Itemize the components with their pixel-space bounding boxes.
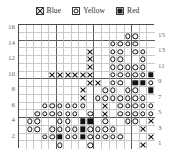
grid-cell[interactable]	[140, 56, 148, 64]
grid-cell[interactable]	[110, 79, 118, 87]
grid-cell[interactable]	[87, 141, 95, 149]
grid-cell[interactable]	[64, 72, 72, 80]
grid-cell[interactable]	[79, 72, 87, 80]
grid-cell[interactable]	[147, 118, 155, 126]
grid-cell[interactable]	[27, 141, 35, 149]
grid-cell[interactable]	[94, 25, 102, 33]
grid-cell[interactable]	[19, 110, 27, 118]
grid-cell[interactable]	[42, 64, 50, 72]
grid-cell[interactable]	[132, 87, 140, 95]
grid-cell[interactable]	[147, 126, 155, 134]
grid-cell[interactable]	[19, 48, 27, 56]
grid-cell[interactable]	[117, 48, 125, 56]
grid-cell[interactable]	[19, 64, 27, 72]
grid-cell[interactable]	[147, 95, 155, 103]
grid-cell[interactable]	[42, 126, 50, 134]
grid-cell[interactable]	[49, 134, 57, 142]
grid-cell[interactable]	[79, 95, 87, 103]
grid-cell[interactable]	[72, 56, 80, 64]
grid-cell[interactable]	[34, 118, 42, 126]
grid-cell[interactable]	[57, 141, 65, 149]
grid-cell[interactable]	[102, 48, 110, 56]
grid-cell[interactable]	[110, 118, 118, 126]
grid-cell[interactable]	[27, 33, 35, 41]
grid-cell[interactable]	[117, 118, 125, 126]
grid-cell[interactable]	[72, 103, 80, 111]
grid-cell[interactable]	[132, 118, 140, 126]
grid-cell[interactable]	[147, 141, 155, 149]
grid-cell[interactable]	[57, 25, 65, 33]
grid-cell[interactable]	[64, 25, 72, 33]
grid-cell[interactable]	[42, 95, 50, 103]
grid-cell[interactable]	[19, 87, 27, 95]
grid-cell[interactable]	[125, 141, 133, 149]
grid-cell[interactable]	[19, 72, 27, 80]
grid-cell[interactable]	[49, 33, 57, 41]
grid-cell[interactable]	[57, 48, 65, 56]
grid-cell[interactable]	[34, 126, 42, 134]
grid-cell[interactable]	[87, 48, 95, 56]
grid-cell[interactable]	[132, 48, 140, 56]
grid-cell[interactable]	[102, 95, 110, 103]
grid-cell[interactable]	[34, 134, 42, 142]
grid-cell[interactable]	[34, 103, 42, 111]
grid-cell[interactable]	[49, 141, 57, 149]
grid-cell[interactable]	[110, 25, 118, 33]
grid-cell[interactable]	[42, 141, 50, 149]
grid-cell[interactable]	[147, 87, 155, 95]
grid-cell[interactable]	[87, 56, 95, 64]
grid-cell[interactable]	[132, 95, 140, 103]
grid-cell[interactable]	[140, 25, 148, 33]
grid-cell[interactable]	[79, 41, 87, 49]
grid-cell[interactable]	[34, 41, 42, 49]
grid-cell[interactable]	[102, 56, 110, 64]
grid-cell[interactable]	[87, 95, 95, 103]
grid-cell[interactable]	[140, 72, 148, 80]
grid-cell[interactable]	[132, 79, 140, 87]
grid-cell[interactable]	[27, 48, 35, 56]
grid-cell[interactable]	[132, 33, 140, 41]
grid-cell[interactable]	[42, 25, 50, 33]
grid-cell[interactable]	[87, 110, 95, 118]
grid-cell[interactable]	[42, 33, 50, 41]
grid-cell[interactable]	[64, 33, 72, 41]
grid-cell[interactable]	[117, 33, 125, 41]
grid-cell[interactable]	[79, 118, 87, 126]
grid-cell[interactable]	[147, 79, 155, 87]
grid-cell[interactable]	[102, 72, 110, 80]
grid-cell[interactable]	[117, 79, 125, 87]
grid-cell[interactable]	[102, 110, 110, 118]
grid-cell[interactable]	[27, 118, 35, 126]
grid-cell[interactable]	[102, 41, 110, 49]
grid-cell[interactable]	[94, 134, 102, 142]
grid-cell[interactable]	[72, 118, 80, 126]
grid-cell[interactable]	[94, 87, 102, 95]
grid-cell[interactable]	[102, 33, 110, 41]
grid-cell[interactable]	[27, 110, 35, 118]
grid-cell[interactable]	[72, 141, 80, 149]
grid-cell[interactable]	[27, 87, 35, 95]
grid-cell[interactable]	[125, 56, 133, 64]
grid-cell[interactable]	[79, 134, 87, 142]
grid-cell[interactable]	[27, 95, 35, 103]
grid-cell[interactable]	[117, 87, 125, 95]
grid-cell[interactable]	[94, 141, 102, 149]
grid-cell[interactable]	[94, 56, 102, 64]
grid-cell[interactable]	[94, 126, 102, 134]
grid-cell[interactable]	[87, 118, 95, 126]
grid-cell[interactable]	[49, 25, 57, 33]
grid-cell[interactable]	[42, 41, 50, 49]
grid-cell[interactable]	[140, 33, 148, 41]
grid-cell[interactable]	[110, 56, 118, 64]
grid-cell[interactable]	[117, 72, 125, 80]
grid-cell[interactable]	[34, 79, 42, 87]
grid-cell[interactable]	[72, 79, 80, 87]
grid-cell[interactable]	[42, 87, 50, 95]
grid-cell[interactable]	[57, 33, 65, 41]
grid-cell[interactable]	[140, 48, 148, 56]
grid-cell[interactable]	[64, 134, 72, 142]
grid-cell[interactable]	[125, 79, 133, 87]
grid-cell[interactable]	[94, 79, 102, 87]
grid-cell[interactable]	[72, 72, 80, 80]
grid-cell[interactable]	[64, 141, 72, 149]
